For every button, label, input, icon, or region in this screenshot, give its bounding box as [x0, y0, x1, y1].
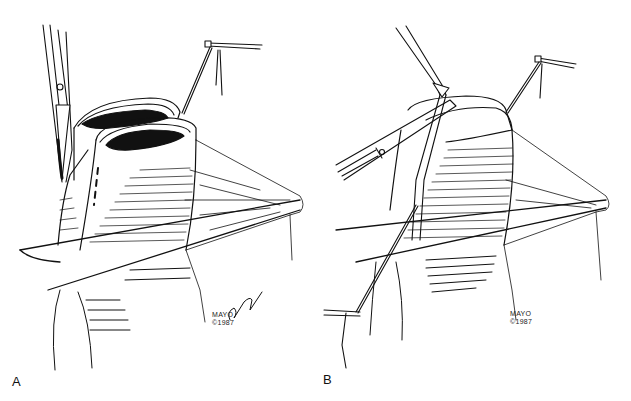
- stay-suture-icon: [182, 41, 262, 114]
- needle-holder-icon: [336, 100, 456, 180]
- copyright-line2: ©1987: [510, 318, 532, 326]
- bowel-loop-front: [58, 118, 196, 250]
- copyright-line2: ©1987: [212, 319, 234, 327]
- panel-label-a: A: [12, 374, 21, 389]
- figure-panel-a: MAYO ©1987 A: [0, 0, 316, 401]
- dashed-incision-line: [94, 168, 98, 205]
- figure-panel-b: MAYO ©1987 B: [316, 0, 631, 401]
- panel-label-b: B: [323, 372, 332, 387]
- bowel-base: [53, 268, 190, 370]
- suture-rod: [336, 200, 606, 262]
- copyright-line1: MAYO: [510, 310, 532, 318]
- bowel-base: [370, 256, 496, 340]
- copyright-mark-b: MAYO ©1987: [510, 310, 532, 326]
- copyright-line1: MAYO: [212, 311, 234, 319]
- copyright-mark-a: MAYO ©1987: [212, 311, 234, 327]
- shading-hatch: [404, 148, 513, 238]
- forceps-icon: [396, 26, 449, 240]
- illustration-a: [0, 0, 316, 401]
- clamp-icon: [43, 25, 72, 182]
- illustration-b: [316, 0, 631, 401]
- mesentery: [185, 140, 303, 322]
- stay-suture-icon: [506, 56, 576, 113]
- mesentery: [504, 130, 609, 320]
